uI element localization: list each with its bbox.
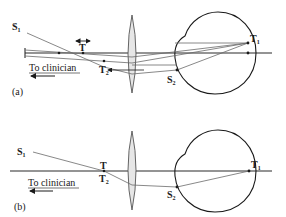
label-t2: T2 [99, 64, 109, 76]
label-t1: T1 [251, 159, 261, 171]
ray-lens-s2 [132, 185, 177, 187]
lens [128, 15, 136, 93]
label-s1: S1 [17, 146, 26, 158]
retinoscopy-diagram: S1 ′ T T2 T1 S2 To clinician (a) S1 T T2… [0, 0, 286, 217]
point-s2 [176, 69, 179, 72]
ray-s2-t1 [177, 171, 249, 187]
label-s2: S2 [167, 74, 176, 86]
label-t: T [79, 42, 86, 53]
point-s2 [176, 186, 179, 189]
point [58, 52, 61, 55]
point-t1 [248, 170, 251, 173]
label-s2: S2 [167, 189, 176, 201]
panel-b: S1 T T2 T1 S2 To clinician (b) [10, 130, 272, 213]
point-t1 [247, 42, 250, 45]
panel-label-a: (a) [12, 86, 23, 98]
ray-s1 [33, 152, 104, 171]
lens [128, 131, 136, 210]
label-t2: T2 [99, 173, 109, 185]
point-t2 [103, 60, 106, 63]
label-t: T [100, 160, 107, 171]
to-clinician-label: To clinician [29, 62, 76, 73]
panel-label-b: (b) [14, 201, 26, 213]
panel-a: S1 ′ T T2 T1 S2 To clinician (a) [12, 12, 272, 98]
label-t1: T1 [250, 33, 260, 45]
point-axis-retina [247, 52, 250, 55]
to-clinician-label: To clinician [28, 177, 75, 188]
